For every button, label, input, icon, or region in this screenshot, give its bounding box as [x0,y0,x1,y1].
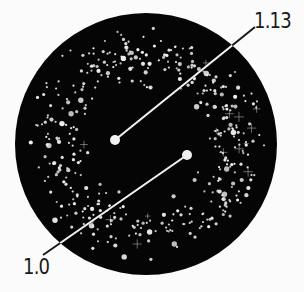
marker-1-0-star [182,150,192,160]
star-field-diagram [0,0,304,292]
star-disc [15,13,277,275]
marker-1-13-star [110,135,120,145]
label-1-13: 1.13 [254,10,291,32]
label-1-0: 1.0 [23,256,49,278]
